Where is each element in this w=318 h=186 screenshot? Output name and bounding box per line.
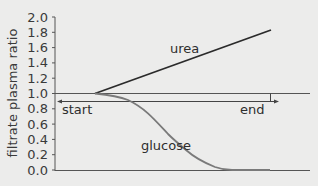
urea-line [95, 30, 271, 94]
y-tick-label: 1.4 [27, 55, 48, 70]
y-tick-label: 0.4 [27, 132, 48, 147]
y-tick-label: 0.6 [27, 117, 48, 132]
y-axis-title: filtrate plasma ratio [5, 29, 20, 158]
y-tick-label: 0.8 [27, 101, 48, 116]
chart: filtrate plasma ratio 2.0 1.8 1.6 1.4 1.… [0, 0, 318, 186]
y-tick-label: 1.6 [27, 40, 48, 55]
y-tick-labels: 2.0 1.8 1.6 1.4 1.2 1.0 0.8 0.6 0.4 0.2 … [27, 10, 48, 178]
y-tick-label: 1.0 [27, 86, 48, 101]
end-label: end [240, 102, 265, 117]
y-tick-label: 2.0 [27, 10, 48, 25]
y-tick-label: 0.0 [27, 163, 48, 178]
y-tick-label: 0.2 [27, 147, 48, 162]
y-tick-label: 1.8 [27, 25, 48, 40]
start-label: start [62, 102, 92, 117]
y-tick-label: 1.2 [27, 71, 48, 86]
glucose-label: glucose [141, 138, 191, 153]
urea-label: urea [170, 41, 199, 56]
